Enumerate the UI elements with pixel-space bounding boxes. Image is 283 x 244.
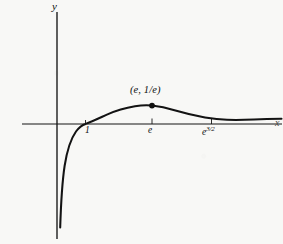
figure-canvas: y x 1 e e3/2 (e, 1/e) (0, 0, 283, 244)
maximum-point-marker (149, 103, 155, 109)
tick-label-e: e (148, 126, 152, 136)
tick-label-1: 1 (85, 126, 90, 136)
tick-label-e32-exponent: 3/2 (206, 125, 214, 133)
plot-svg (0, 0, 283, 244)
tick-label-e-three-halves: e3/2 (202, 126, 215, 138)
axis-label-y: y (52, 1, 57, 12)
maximum-point-annotation: (e, 1/e) (130, 85, 161, 96)
axis-label-x: x (275, 118, 279, 128)
